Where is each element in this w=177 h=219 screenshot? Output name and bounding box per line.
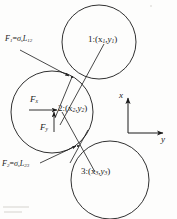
force-2-length-index: 23: [24, 163, 29, 168]
fy-index: y: [46, 126, 48, 132]
leader-force-2: [40, 146, 76, 163]
diagram-svg: [0, 0, 177, 219]
axis-x-label: x: [119, 91, 123, 100]
circle-3-id: 3:(x: [81, 166, 96, 176]
force-line-2-3: [62, 112, 95, 172]
circle-2-id: 2:(x: [58, 103, 73, 113]
circle-2-paren: ): [84, 103, 87, 113]
force-fy-label: Fy: [40, 123, 48, 133]
circle-3-label: 3:(x3,y3): [81, 167, 110, 177]
scan-speckle: [4, 211, 22, 213]
force-label-2: F2=σsL23: [2, 160, 29, 169]
scan-speckle: [150, 5, 152, 7]
fx-index: x: [36, 98, 38, 104]
force-label-1: F1=σsL12: [5, 35, 32, 44]
figure-canvas: F1=σsL12 F2=σsL23 1:(x1,y1) 2:(x2,y2) 3:…: [0, 0, 177, 219]
circle-1-label: 1:(x1,y1): [88, 35, 117, 45]
branch-line-lower: [70, 130, 88, 163]
circle-2-label: 2:(x2,y2): [58, 104, 87, 114]
circle-1-paren: ): [114, 34, 117, 44]
force-fx-label: Fx: [30, 95, 38, 105]
scan-speckle: [3, 206, 29, 208]
axis-y-label: y: [161, 135, 165, 144]
force-1-length-index: 12: [27, 38, 32, 43]
contact-point-1-2: [71, 76, 73, 78]
circle-1-id: 1:(x: [88, 34, 103, 44]
contact-point-2-3: [77, 145, 79, 147]
particle-circle-3: [71, 141, 149, 219]
circle-3-paren: ): [107, 166, 110, 176]
